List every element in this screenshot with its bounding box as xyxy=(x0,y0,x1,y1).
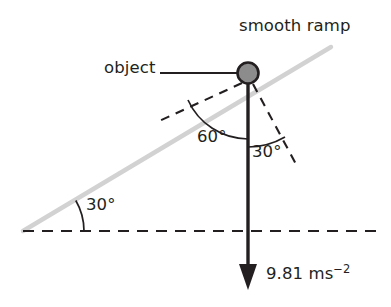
diagram-canvas xyxy=(0,0,391,307)
downslope-dashed-line xyxy=(157,83,242,122)
acceleration-exponent: −2 xyxy=(333,262,350,276)
incline-angle-label: 30° xyxy=(86,197,116,214)
object-label: object xyxy=(104,60,155,77)
smooth-ramp-label: smooth ramp xyxy=(239,18,351,35)
acceleration-label: 9.81 ms−2 xyxy=(266,266,351,283)
acceleration-value: 9.81 ms xyxy=(266,264,333,283)
thirty-degree-angle-label: 30° xyxy=(252,144,282,161)
physics-ramp-diagram: smooth ramp object 30° 60° 30° 9.81 ms−2 xyxy=(0,0,391,307)
sixty-degree-angle-label: 60° xyxy=(197,129,227,146)
ramp-line xyxy=(23,47,331,231)
gravity-vector-arrowhead xyxy=(239,264,257,290)
incline-angle-arc xyxy=(76,201,84,232)
object-ball xyxy=(238,63,259,84)
